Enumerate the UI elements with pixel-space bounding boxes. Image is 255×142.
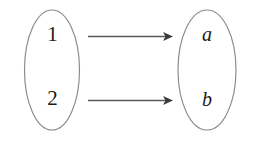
codomain-element-a-label: a (202, 23, 212, 45)
domain-element-2-label: 2 (47, 86, 58, 110)
domain-element-1-label: 1 (47, 22, 58, 46)
mapping-arrow-1-to-a (88, 32, 173, 41)
diagram-canvas: 1 2 a b (0, 0, 255, 142)
function-mapping-diagram: 1 2 a b (0, 0, 255, 142)
mapping-arrow-2-to-b (88, 96, 173, 105)
codomain-element-b-label: b (202, 88, 212, 110)
